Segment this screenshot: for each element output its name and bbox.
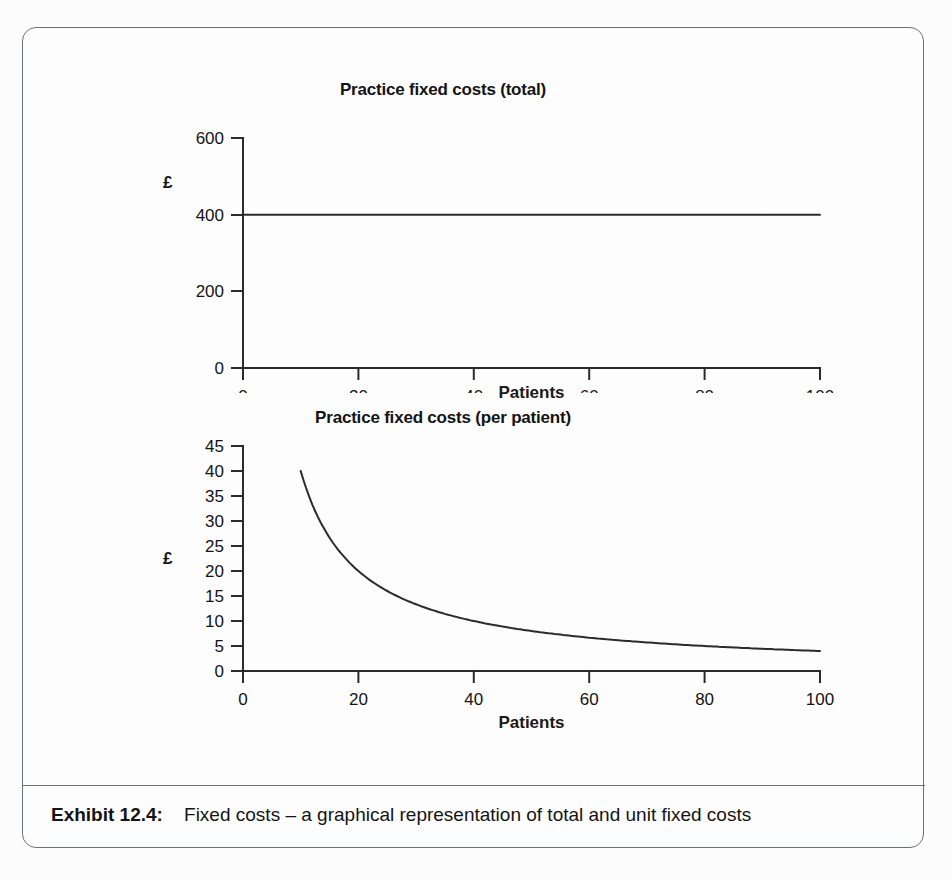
x-tick-label-20u: 20: [349, 690, 368, 709]
chart-practice-fixed-costs-total: Practice fixed costs (total) £ 600 400 2…: [23, 48, 925, 393]
y-tick-label-0u: 0: [215, 662, 224, 681]
x-tick-label-40u: 40: [464, 690, 483, 709]
x-axis-name-per-patient-wrap: Patients: [243, 713, 820, 733]
x-axis-name-total: Patients: [498, 383, 564, 402]
exhibit-frame: Practice fixed costs (total) £ 600 400 2…: [22, 27, 924, 848]
y-tick-label-10: 10: [205, 612, 224, 631]
x-tick-label-60u: 60: [580, 690, 599, 709]
chart-practice-fixed-costs-per-patient: Practice fixed costs (per patient) £: [23, 406, 925, 746]
series-fixed-cost-per-patient: [301, 471, 820, 651]
y-tick-label-5: 5: [215, 637, 224, 656]
y-tick-label-200: 200: [196, 282, 224, 301]
y-tick-label-40: 40: [205, 462, 224, 481]
page-canvas: Practice fixed costs (total) £ 600 400 2…: [0, 0, 952, 880]
y-tick-label-30: 30: [205, 512, 224, 531]
exhibit-caption-text: Fixed costs – a graphical representation…: [184, 804, 751, 825]
figure-area: Practice fixed costs (total) £ 600 400 2…: [23, 28, 925, 788]
x-axis-name-per-patient: Patients: [498, 713, 564, 732]
y-tick-label-600: 600: [196, 129, 224, 148]
y-tick-label-0: 0: [215, 359, 224, 378]
x-tick-label-80u: 80: [695, 690, 714, 709]
x-axis-name-total-wrap: Patients: [243, 383, 820, 403]
y-tick-label-20: 20: [205, 562, 224, 581]
exhibit-caption: Exhibit 12.4: Fixed costs – a graphical …: [51, 804, 911, 826]
y-tick-label-25: 25: [205, 537, 224, 556]
caption-divider: [23, 785, 925, 786]
y-tick-label-15: 15: [205, 587, 224, 606]
exhibit-caption-label: Exhibit 12.4:: [51, 804, 163, 825]
y-tick-label-45: 45: [205, 437, 224, 456]
x-tick-label-0u: 0: [238, 690, 247, 709]
plot-area-total: 600 400 200 0 0 20 40 60 80 100: [23, 48, 925, 393]
x-tick-label-100u: 100: [806, 690, 834, 709]
y-tick-label-400: 400: [196, 206, 224, 225]
y-tick-label-35: 35: [205, 487, 224, 506]
plot-area-per-patient: 45 40 35 30 25 20 15 10 5 0: [23, 406, 925, 746]
